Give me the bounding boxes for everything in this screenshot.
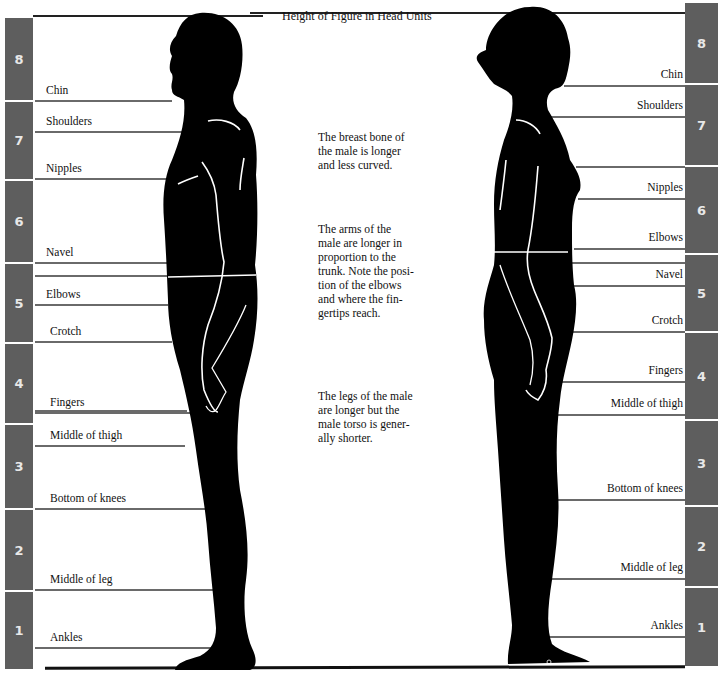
female-silhouette: [477, 7, 590, 664]
figure-silhouettes: [0, 0, 724, 679]
male-silhouette: [163, 13, 257, 670]
